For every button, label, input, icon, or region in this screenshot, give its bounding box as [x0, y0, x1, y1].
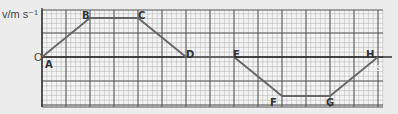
point-label-g: G — [326, 98, 334, 108]
x-axis-label: t/s — [370, 62, 382, 73]
velocity-time-graph: v/m s⁻¹ O t/s A B C D E F G H — [0, 0, 398, 114]
point-label-a: A — [45, 60, 53, 70]
y-axis-label: v/m s⁻¹ — [2, 9, 38, 20]
point-label-b: B — [82, 11, 90, 21]
point-label-c: C — [138, 11, 145, 21]
point-label-d: D — [186, 50, 194, 60]
point-label-e: E — [233, 50, 240, 60]
graph-grid — [0, 0, 398, 114]
point-label-h: H — [366, 50, 374, 60]
point-label-f: F — [270, 98, 277, 108]
origin-label: O — [34, 52, 43, 63]
